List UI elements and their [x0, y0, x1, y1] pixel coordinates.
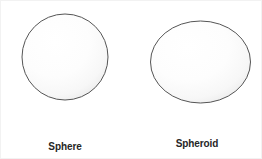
sphere-group: Sphere [1, 1, 129, 159]
sphere-outline [22, 14, 108, 100]
spheroid-svg [150, 20, 251, 104]
spheroid-group: Spheroid (Ellipsoid) [131, 1, 262, 159]
sphere-svg [21, 10, 108, 104]
sphere-caption-line-1: Sphere [1, 141, 129, 153]
spheroid-shape [150, 20, 251, 104]
spheroid-caption-line-1: Spheroid [131, 138, 262, 150]
spheroid-caption: Spheroid (Ellipsoid) [131, 114, 262, 159]
diagram-figure: Sphere Sphe [0, 0, 262, 159]
sphere-shape [21, 10, 108, 104]
sphere-caption: Sphere [1, 117, 129, 159]
spheroid-outline [151, 21, 251, 103]
figure-canvas: Sphere Sphe [1, 1, 261, 158]
